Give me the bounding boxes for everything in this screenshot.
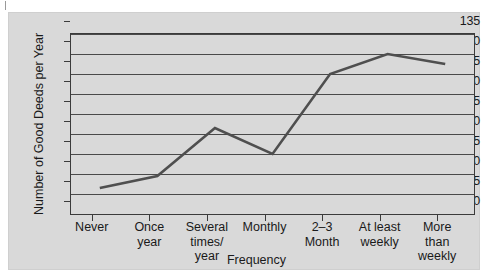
y-axis-tick-mark [64, 21, 70, 22]
x-axis-title-text: Frequency [227, 253, 286, 267]
y-axis-title-text: Number of Good Deeds per Year [28, 33, 50, 215]
series-path [100, 54, 445, 188]
figure-panel: Number of Good Deeds per Year 1351301251… [8, 12, 480, 270]
series-line-good-deeds [71, 34, 474, 214]
y-axis-tick-label: 135 [436, 15, 480, 28]
chart-figure: Number of Good Deeds per Year 1351301251… [0, 0, 487, 280]
x-axis-title: Frequency [0, 253, 487, 267]
plot-area [70, 33, 475, 215]
y-axis-title: Number of Good Deeds per Year [28, 33, 50, 215]
scan-edge-mark [5, 1, 6, 10]
